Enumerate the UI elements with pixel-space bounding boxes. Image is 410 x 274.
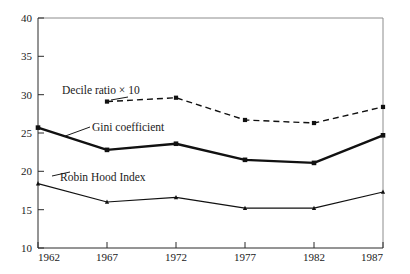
series-label-decile-ratio: Decile ratio × 10 [62,84,140,96]
y-tick-label-30: 30 [21,89,33,101]
decile-leader-line [111,97,128,100]
series-label-gini-coefficient: Gini coefficient [92,121,165,133]
data-point-marker [243,158,248,163]
series-layer [36,96,386,210]
data-point-marker [105,148,110,153]
y-axis-ticks [38,18,44,248]
series-label-robin-hood-index: Robin Hood Index [60,171,146,183]
gini-leader-line [64,127,90,137]
x-tick-label-1987: 1987 [361,251,384,263]
data-point-marker [312,161,317,166]
x-tick-label-1977: 1977 [234,251,257,263]
series-gini-coefficient [36,125,386,165]
chart-canvas: 40 35 30 25 20 15 10 1962 1967 1972 1977… [0,0,410,274]
data-point-marker [36,181,40,185]
plot-frame-top-right [38,18,383,248]
series-line [38,184,383,209]
y-tick-label-35: 35 [21,50,33,62]
y-tick-label-10: 10 [21,242,33,254]
plot-axes [38,18,383,248]
data-point-marker [174,141,179,146]
x-tick-label-1967: 1967 [96,251,119,263]
inequality-trend-chart: 40 35 30 25 20 15 10 1962 1967 1972 1977… [0,0,410,274]
y-tick-label-40: 40 [21,12,33,24]
data-point-marker [381,105,385,109]
y-tick-label-15: 15 [21,204,33,216]
x-tick-label-1972: 1972 [165,251,187,263]
x-tick-label-1962: 1962 [38,251,60,263]
x-tick-label-1982: 1982 [303,251,325,263]
data-point-marker [381,190,385,194]
y-tick-label-20: 20 [21,165,33,177]
data-point-marker [174,96,178,100]
data-point-marker [381,133,386,138]
data-point-marker [243,118,247,122]
data-point-marker [36,125,41,130]
y-tick-label-25: 25 [21,127,33,139]
data-point-marker [312,121,316,125]
series-robin-hood-index [36,181,385,210]
x-axis-ticks [38,242,383,248]
data-point-marker [105,99,109,103]
series-line [38,128,383,163]
